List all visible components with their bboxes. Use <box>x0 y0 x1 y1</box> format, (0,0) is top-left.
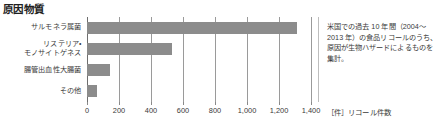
x-tick-label: 400 <box>145 106 157 115</box>
x-tick-mark <box>183 102 184 105</box>
note-line: 2013 年）の食品リコールのうち、 <box>327 33 439 44</box>
x-tick-label: 1,000 <box>238 106 257 115</box>
x-tick-label: 1,200 <box>270 106 289 115</box>
x-tick-mark <box>311 102 312 105</box>
bar <box>87 64 110 76</box>
x-tick-mark <box>119 102 120 105</box>
note-line: 米国での過去 10 年間（2004〜 <box>327 22 439 33</box>
x-tick-label: 800 <box>209 106 221 115</box>
bar <box>87 85 97 97</box>
x-tick-mark <box>151 102 152 105</box>
note-line: 集計。 <box>327 54 439 65</box>
x-tick-label: 1,400 <box>302 106 321 115</box>
x-tick-mark <box>279 102 280 105</box>
category-label: その他 <box>60 87 81 96</box>
bar-chart: サルモネラ属菌リステリア・ モノサイトゲネス腸管出血性大腸菌その他 020040… <box>0 17 330 133</box>
bar-series <box>87 17 311 102</box>
x-axis: 02004006008001,0001,2001,400 <box>87 102 311 122</box>
bar <box>87 43 172 55</box>
chart-title: 原因物質 <box>3 1 44 16</box>
category-label: リステリア・ モノサイトゲネス <box>24 40 81 57</box>
category-label: 腸管出血性大腸菌 <box>24 66 81 75</box>
x-tick-mark <box>87 102 88 105</box>
note-line: 原因が生物ハザードによるものを <box>327 43 439 54</box>
x-tick-label: 600 <box>177 106 189 115</box>
x-tick-mark <box>215 102 216 105</box>
bar <box>87 22 297 34</box>
note-text: 米国での過去 10 年間（2004〜2013 年）の食品リコールのうち、原因が生… <box>327 22 439 64</box>
x-tick-label: 0 <box>85 106 89 115</box>
note-divider <box>318 17 319 102</box>
gridline-1400 <box>311 17 312 102</box>
plot-area <box>87 17 311 102</box>
category-label: サルモネラ属菌 <box>31 23 81 32</box>
x-axis-unit-label: ［件］リコール件数 <box>327 106 391 117</box>
category-axis-labels: サルモネラ属菌リステリア・ モノサイトゲネス腸管出血性大腸菌その他 <box>0 17 84 102</box>
x-tick-mark <box>247 102 248 105</box>
x-tick-label: 200 <box>113 106 125 115</box>
